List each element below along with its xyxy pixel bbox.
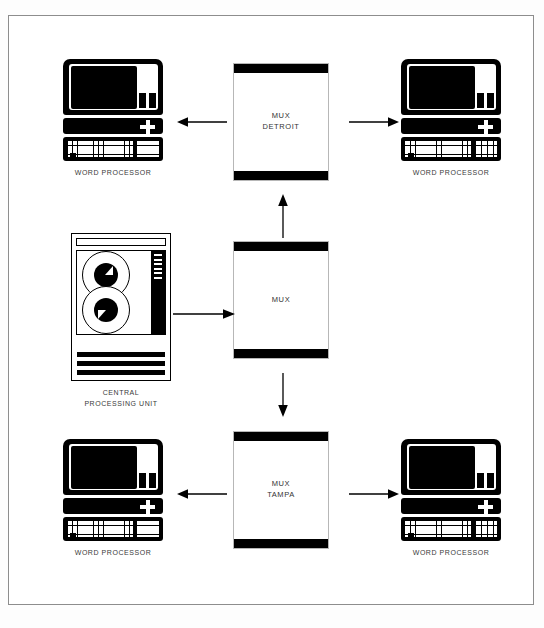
mux-body: MUX [234,251,328,349]
monitor-icon [401,59,501,115]
keyboard-icon [63,517,163,541]
keyboard-main-keys [66,520,134,538]
mux-label: MUX TAMPA [267,479,295,501]
keyboard-key-marker [408,533,414,537]
cpu-indicator-lights [151,251,165,334]
disk-drive-slot-icon [139,473,146,488]
screen [409,66,475,109]
node-caption: WORD PROCESSOR [401,168,501,179]
indicator-light [154,277,162,279]
keyboard-main-keys [404,140,472,158]
monitor-bezel [69,64,158,110]
monitor-bezel [407,64,496,110]
mux-box: MUX DETROIT [233,63,329,181]
mux-body: MUX DETROIT [234,73,328,171]
monitor-icon [63,439,163,495]
keyboard-key-marker [408,153,414,157]
keyboard-icon [401,137,501,161]
plus-icon [484,120,488,134]
node-caption: CENTRAL PROCESSING UNIT [71,388,171,409]
monitor-bezel [407,444,496,490]
node-word-processor-top-left[interactable]: WORD PROCESSOR [63,59,163,179]
console-band [401,498,501,514]
tape-reel-icon [82,286,130,334]
arrow-mux-center-to-mux-tampa [277,373,289,417]
node-mux-detroit[interactable]: MUX DETROIT [233,63,329,181]
tape-reel-notch [98,310,106,319]
screen [71,446,137,489]
arrow-mux-detroit-to-word-processor-left [177,116,227,128]
mux-bottom-bar [234,171,328,180]
node-mux-center[interactable]: MUX [233,241,329,359]
disk-drive-slot-icon [149,93,156,108]
cpu-vent-bars [77,352,165,375]
keyboard-main-keys [66,140,134,158]
screen [409,446,475,489]
tape-reel-notch [105,266,113,275]
cpu-front-panel [76,250,166,335]
node-word-processor-bottom-right[interactable]: WORD PROCESSOR [401,439,501,559]
keyboard-numpad-keys [474,520,498,538]
node-central-processing-unit[interactable]: CENTRAL PROCESSING UNIT [71,233,171,409]
plus-icon [484,500,488,514]
plus-icon [146,500,150,514]
console-band [401,118,501,134]
console-band [63,498,163,514]
plus-icon [146,120,150,134]
mux-bottom-bar [234,349,328,358]
indicator-light [154,259,162,261]
disk-drive-slot-icon [487,473,494,488]
indicator-light [154,268,162,270]
arrow-mux-tampa-to-word-processor-left [177,488,227,500]
node-caption: WORD PROCESSOR [401,548,501,559]
disk-drive-slot-icon [487,93,494,108]
keyboard-numpad-keys [474,140,498,158]
keyboard-key-marker [70,533,76,537]
disk-drive-slot-icon [149,473,156,488]
disk-drive-slot-icon [139,93,146,108]
monitor-bezel [69,444,158,490]
indicator-light [154,263,162,265]
node-word-processor-bottom-left[interactable]: WORD PROCESSOR [63,439,163,559]
mux-label: MUX DETROIT [262,111,299,133]
arrow-cpu-to-mux-center [173,308,235,320]
keyboard-main-keys [404,520,472,538]
mux-box: MUX TAMPA [233,431,329,549]
tape-reel-hub [94,298,118,322]
arrow-mux-detroit-to-word-processor-right [349,116,399,128]
arrow-mux-center-to-mux-detroit [277,194,289,238]
keyboard-numpad-keys [136,520,160,538]
mux-top-bar [234,64,328,73]
mux-bottom-bar [234,539,328,548]
cpu-tape-reels [77,251,151,334]
diagram-frame: WORD PROCESSOR MUX DETROIT [8,15,534,605]
mux-label: MUX [272,295,290,306]
console-band [63,118,163,134]
mux-top-bar [234,432,328,441]
node-caption: WORD PROCESSOR [63,548,163,559]
screen [71,66,137,109]
keyboard-icon [63,137,163,161]
cpu-chassis-icon [71,233,171,381]
cpu-vent-bar [77,370,165,375]
tape-reel-hub [94,263,118,287]
node-caption: WORD PROCESSOR [63,168,163,179]
node-word-processor-top-right[interactable]: WORD PROCESSOR [401,59,501,179]
cpu-vent-bar [77,352,165,357]
cpu-top-slot [76,238,166,246]
arrow-mux-tampa-to-word-processor-right [349,488,399,500]
monitor-icon [63,59,163,115]
mux-body: MUX TAMPA [234,441,328,539]
keyboard-numpad-keys [136,140,160,158]
mux-box: MUX [233,241,329,359]
keyboard-icon [401,517,501,541]
mux-top-bar [234,242,328,251]
indicator-light [154,272,162,274]
monitor-icon [401,439,501,495]
disk-drive-slot-icon [477,473,484,488]
node-mux-tampa[interactable]: MUX TAMPA [233,431,329,549]
disk-drive-slot-icon [477,93,484,108]
keyboard-key-marker [70,153,76,157]
cpu-vent-bar [77,361,165,366]
indicator-light [154,254,162,256]
